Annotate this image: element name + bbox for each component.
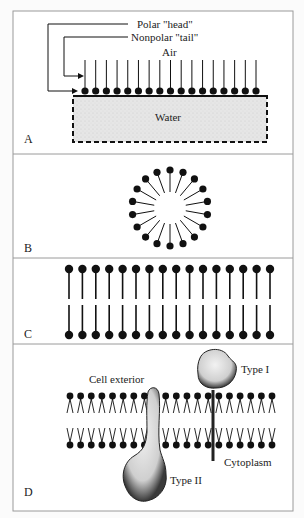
- lipid-head-inner: [269, 442, 276, 449]
- lipid-head-inner: [77, 442, 84, 449]
- lipid-head-inner: [109, 442, 116, 449]
- lipid-head: [231, 87, 238, 94]
- lipid-head-outer: [173, 393, 180, 400]
- label-nonpolar-tail: Nonpolar "tail": [131, 31, 198, 43]
- lipid-head-inner: [130, 442, 137, 449]
- lipid-head-outer: [237, 393, 244, 400]
- lipid-head-outer: [212, 265, 220, 273]
- lipid-head-inner: [65, 331, 73, 339]
- lipid-head-outer: [98, 393, 105, 400]
- lipid-head-outer: [199, 265, 207, 273]
- lipid-head: [179, 240, 186, 247]
- lipid-head: [142, 234, 149, 241]
- lipid-head-inner: [145, 331, 153, 339]
- lipid-head-outer: [120, 393, 127, 400]
- label-cytoplasm: Cytoplasm: [224, 456, 272, 468]
- lipid-head-outer: [132, 265, 140, 273]
- lipid-head-outer: [77, 393, 84, 400]
- lipid-head: [113, 87, 120, 94]
- lipid-head-inner: [184, 442, 191, 449]
- lipid-head: [146, 87, 153, 94]
- lipid-head-inner: [199, 331, 207, 339]
- lipid-head-outer: [258, 393, 265, 400]
- lipid-head: [191, 234, 198, 241]
- lipid-head: [191, 175, 198, 182]
- lipid-head-inner: [266, 331, 274, 339]
- lipid-head-outer: [172, 265, 180, 273]
- lipid-head-outer: [88, 393, 95, 400]
- label-cell-exterior: Cell exterior: [89, 373, 145, 385]
- lipid-head: [204, 211, 211, 218]
- lipid-head-outer: [269, 393, 276, 400]
- lipid-head-inner: [237, 442, 244, 449]
- lipid-head-inner: [88, 442, 95, 449]
- lipid-head-inner: [252, 331, 260, 339]
- lipid-head-outer: [130, 393, 137, 400]
- lipid-head-inner: [258, 442, 265, 449]
- lipid-head-outer: [92, 265, 100, 273]
- lipid-head-outer: [247, 393, 254, 400]
- lipid-head: [129, 198, 136, 205]
- lipid-head: [210, 87, 217, 94]
- lipid-head-inner: [226, 331, 234, 339]
- lipid-head: [199, 223, 206, 230]
- lipid-head: [199, 87, 206, 94]
- lipid-head: [166, 242, 173, 249]
- lipid-head-inner: [120, 442, 127, 449]
- label-air: Air: [162, 46, 177, 58]
- lipid-head-inner: [226, 442, 233, 449]
- lipid-head: [103, 87, 110, 94]
- lipid-head-outer: [239, 265, 247, 273]
- lipid-head: [156, 87, 163, 94]
- lipid-head-outer: [215, 393, 222, 400]
- lipid-head: [242, 87, 249, 94]
- lipid-head-inner: [205, 442, 212, 449]
- lipid-head: [166, 166, 173, 173]
- label-water: Water: [155, 111, 181, 123]
- lipid-head-inner: [185, 331, 193, 339]
- lipid-head: [153, 169, 160, 176]
- panel-letter-d: D: [24, 485, 33, 499]
- lipid-head-outer: [266, 265, 274, 273]
- lipid-head-inner: [78, 331, 86, 339]
- lipid-head-inner: [247, 442, 254, 449]
- lipid-head-outer: [194, 393, 201, 400]
- lipid-head-inner: [105, 331, 113, 339]
- lipid-head-outer: [118, 265, 126, 273]
- lipid-head-inner: [194, 442, 201, 449]
- lipid-head: [199, 185, 206, 192]
- lipid-head-outer: [105, 265, 113, 273]
- label-type-i: Type I: [241, 363, 270, 375]
- lipid-head-outer: [184, 393, 191, 400]
- lipid-head-outer: [65, 265, 73, 273]
- lipid-head: [178, 87, 185, 94]
- membrane-figure: Polar "head" Nonpolar "tail" Air Water A…: [0, 0, 304, 518]
- lipid-head-inner: [212, 331, 220, 339]
- lipid-head-outer: [78, 265, 86, 273]
- lipid-head-inner: [215, 442, 222, 449]
- lipid-head-outer: [67, 393, 74, 400]
- label-type-ii: Type II: [170, 474, 202, 486]
- lipid-head-outer: [226, 265, 234, 273]
- lipid-head-inner: [239, 331, 247, 339]
- lipid-head-outer: [185, 265, 193, 273]
- lipid-head: [188, 87, 195, 94]
- panel-letter-a: A: [24, 132, 33, 146]
- lipid-head-outer: [226, 393, 233, 400]
- lipid-head: [142, 175, 149, 182]
- panel-letter-b: B: [24, 241, 32, 255]
- lipid-head-inner: [159, 331, 167, 339]
- lipid-head: [179, 169, 186, 176]
- lipid-head-outer: [145, 265, 153, 273]
- label-polar-head: Polar "head": [137, 18, 193, 30]
- lipid-head: [220, 87, 227, 94]
- lipid-head-inner: [98, 442, 105, 449]
- lipid-head: [167, 87, 174, 94]
- lipid-head: [81, 87, 88, 94]
- lipid-head: [133, 185, 140, 192]
- lipid-head-outer: [109, 393, 116, 400]
- lipid-head: [133, 223, 140, 230]
- lipid-head-outer: [162, 393, 169, 400]
- lipid-head: [92, 87, 99, 94]
- lipid-head-outer: [252, 265, 260, 273]
